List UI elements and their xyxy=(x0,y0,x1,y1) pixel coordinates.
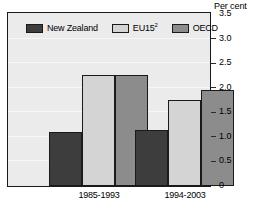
y-axis-label: 3.5 xyxy=(219,9,232,18)
legend-swatch xyxy=(26,24,43,33)
y-axis-tick xyxy=(211,63,216,64)
x-axis-label: 1985-1993 xyxy=(50,190,149,200)
legend-label: New Zealand xyxy=(47,23,98,33)
y-axis-label: 0.5 xyxy=(219,156,232,165)
legend-item: EU152 xyxy=(112,23,158,33)
y-axis-label: 1.5 xyxy=(219,107,232,116)
bar xyxy=(135,130,168,187)
y-axis-label: 3.0 xyxy=(219,34,232,43)
y-axis-label: 2.5 xyxy=(219,58,232,67)
legend-swatch xyxy=(172,24,189,33)
bar-chart: Per cent 3.53.02.52.01.51.00.50 New Zeal… xyxy=(0,0,264,208)
legend-label: OECD xyxy=(193,23,218,33)
chart-legend: New ZealandEU152OECD xyxy=(26,23,218,33)
bar xyxy=(49,132,82,186)
legend-item: OECD xyxy=(172,23,218,33)
y-axis-tick xyxy=(211,87,216,88)
bars-layer xyxy=(8,13,210,186)
y-axis-tick xyxy=(211,112,216,113)
legend-label-superscript: 2 xyxy=(155,22,158,28)
plot-area xyxy=(7,12,211,187)
y-axis-label: 0 xyxy=(219,181,224,190)
bar xyxy=(82,75,115,186)
y-axis-tick xyxy=(211,136,216,137)
x-axis-label: 1994-2003 xyxy=(136,190,235,200)
y-axis-tick xyxy=(211,38,216,39)
legend-swatch xyxy=(112,24,129,33)
legend-label: EU152 xyxy=(133,23,158,33)
y-axis-label: 2.0 xyxy=(219,83,232,92)
bar xyxy=(168,100,201,186)
legend-item: New Zealand xyxy=(26,23,98,33)
y-axis-label: 1.0 xyxy=(219,132,232,141)
y-axis-tick xyxy=(211,161,216,162)
